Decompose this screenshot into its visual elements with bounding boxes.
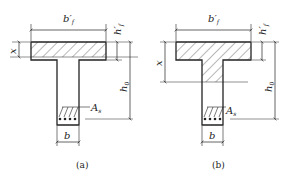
flange-thickness-label: h′f	[112, 22, 125, 35]
steel-reinforcement: As	[204, 105, 237, 120]
steel-area-label: As	[225, 105, 236, 117]
web-width-label: b	[209, 130, 215, 141]
web-width-label: b	[64, 130, 70, 141]
compression-zone-hatch	[176, 42, 251, 82]
compression-depth-dimension: x	[7, 42, 19, 57]
flange-thickness-label: h′f	[257, 22, 270, 35]
flange-width-dimension: b′f	[31, 13, 106, 41]
x-label: x	[7, 48, 18, 54]
figure-b-caption: (b)	[212, 160, 225, 170]
compression-zone-hatch	[31, 42, 106, 57]
flange-width-label: b′f	[208, 13, 221, 26]
steel-reinforcement: As	[59, 102, 102, 120]
web-width-dimension: b	[57, 126, 79, 146]
compression-depth-dimension: x	[153, 42, 165, 82]
steel-area-label: As	[90, 102, 101, 114]
effective-depth-label: h0	[118, 82, 130, 92]
figure-a-caption: (a)	[76, 160, 88, 170]
figure-a: b′f x h′f h0	[7, 13, 138, 170]
x-label: x	[153, 60, 164, 66]
flange-width-label: b′f	[63, 13, 76, 26]
t-beam-diagram: b′f x h′f h0	[0, 0, 285, 186]
effective-depth-label: h0	[263, 82, 275, 92]
flange-thickness-dimension: h′f	[107, 22, 133, 60]
figure-b: b′f x h′f h0	[153, 13, 279, 170]
flange-width-dimension: b′f	[176, 13, 251, 41]
web-width-dimension: b	[202, 126, 223, 146]
